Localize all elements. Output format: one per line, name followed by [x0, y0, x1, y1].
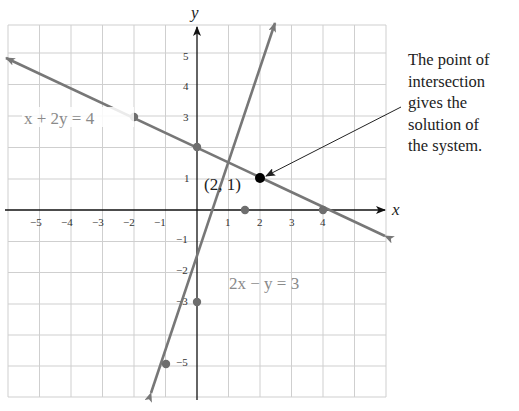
svg-text:−1: −1: [154, 216, 166, 228]
svg-text:−2: −2: [176, 264, 188, 276]
callout-text: The point of intersection gives the solu…: [408, 49, 519, 157]
svg-text:5: 5: [183, 50, 189, 62]
svg-text:4: 4: [320, 216, 326, 228]
svg-text:−3: −3: [92, 216, 104, 228]
svg-text:3: 3: [289, 216, 295, 228]
equation-label-line1: x + 2y = 4: [24, 109, 95, 128]
y-tick-labels: 5 4 3 1 −1 −2 −3 −5: [176, 50, 190, 368]
svg-text:−5: −5: [176, 356, 188, 368]
x-axis-label: x: [391, 200, 400, 219]
callout-line: the system.: [408, 135, 519, 157]
svg-text:−2: −2: [123, 216, 135, 228]
svg-text:−1: −1: [176, 233, 188, 245]
callout-line: gives the: [408, 92, 519, 114]
equation-label-line2: 2x − y = 3: [229, 274, 299, 293]
callout-line: solution of: [408, 114, 519, 136]
svg-text:−5: −5: [30, 216, 42, 228]
intersection-point: [255, 173, 265, 183]
x-tick-labels: −5 −4 −3 −2 −1 1 2 3 4: [30, 216, 326, 228]
line-2x-minus-y-eq-3: [151, 23, 275, 393]
svg-text:1: 1: [184, 172, 190, 184]
svg-text:−4: −4: [61, 216, 73, 228]
intersection-label: (2, 1): [204, 175, 241, 194]
svg-text:3: 3: [183, 111, 189, 123]
callout-line: intersection: [408, 71, 519, 93]
svg-text:1: 1: [225, 216, 231, 228]
svg-text:4: 4: [183, 80, 189, 92]
svg-text:2: 2: [257, 216, 263, 228]
y-axis-label: y: [189, 3, 199, 22]
callout-arrow: [266, 107, 401, 176]
callout-line: The point of: [408, 49, 519, 71]
